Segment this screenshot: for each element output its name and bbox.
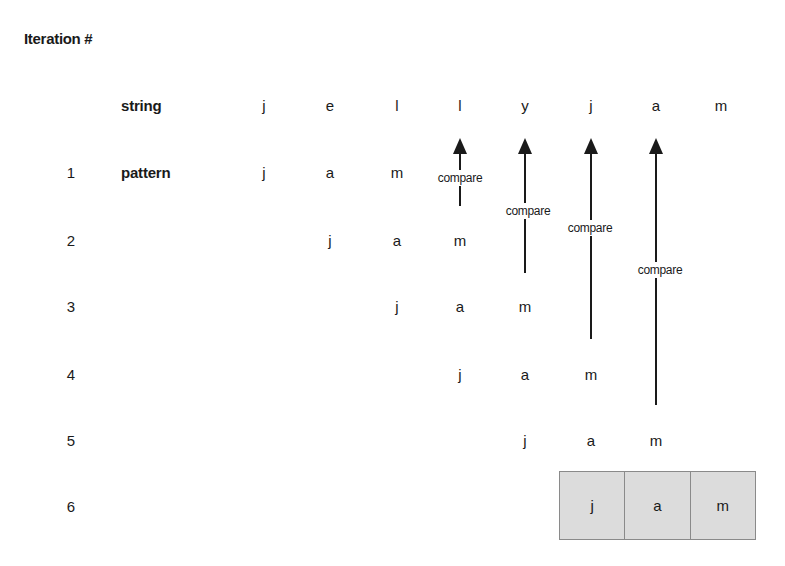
pattern-char: m [646,432,666,449]
pattern-char: a [581,432,601,449]
string-char: m [711,97,731,114]
pattern-char: j [515,432,535,449]
compare-arrow-line [590,152,592,339]
pattern-char: m [387,164,407,181]
pattern-char: j [320,232,340,249]
matched-char: m [691,472,755,539]
pattern-char: a [387,232,407,249]
pattern-row-label: pattern [121,164,170,181]
iteration-number: 6 [61,498,81,515]
iteration-number: 5 [61,432,81,449]
string-char: j [254,97,274,114]
pattern-char: m [515,298,535,315]
matched-char: j [560,472,625,539]
pattern-char: a [515,366,535,383]
pattern-char: j [254,164,274,181]
iteration-number: 4 [61,366,81,383]
match-highlight-box: j a m [559,471,756,540]
string-char: e [320,97,340,114]
compare-label: compare [438,170,483,186]
string-row-label: string [121,97,161,114]
compare-label: compare [506,203,551,219]
compare-arrow-line [655,152,657,405]
matched-char: a [625,472,690,539]
iteration-number: 1 [61,164,81,181]
string-char: l [450,97,470,114]
pattern-char: a [450,298,470,315]
iteration-number: 2 [61,232,81,249]
string-char: y [515,97,535,114]
string-char: j [581,97,601,114]
compare-label: compare [638,262,683,278]
compare-label: compare [568,220,613,236]
iteration-number: 3 [61,298,81,315]
pattern-char: j [450,366,470,383]
pattern-char: m [581,366,601,383]
pattern-char: j [387,298,407,315]
diagram-title: Iteration # [24,30,92,47]
pattern-char: m [450,232,470,249]
string-char: l [387,97,407,114]
string-char: a [646,97,666,114]
pattern-char: a [320,164,340,181]
